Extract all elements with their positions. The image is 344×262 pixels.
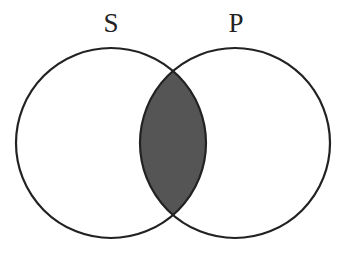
label-s: S [103, 8, 118, 38]
venn-diagram: S P [0, 0, 344, 262]
label-p: P [228, 8, 243, 38]
